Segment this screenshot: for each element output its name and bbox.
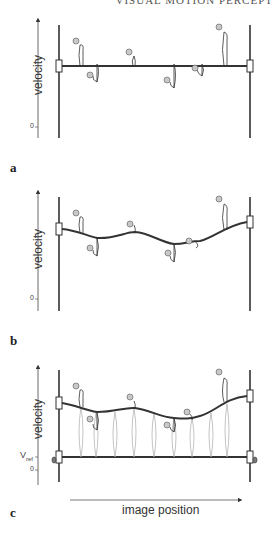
panel-c [35, 367, 257, 500]
x-axis-label: image position [122, 503, 199, 517]
panel-a [35, 20, 253, 138]
panel-b [35, 192, 253, 311]
zero-tick-c: 0 [30, 465, 34, 472]
panel-letter-a: a [10, 160, 17, 176]
vref-sub: ref [26, 456, 33, 462]
y-axis-label-a: velocity [31, 47, 45, 95]
panel-letter-b: b [10, 333, 17, 349]
zero-tick-a: 0 [30, 122, 34, 129]
panel-letter-c: c [10, 505, 16, 521]
y-axis-label-c: velocity [31, 391, 45, 439]
y-axis-label-b: velocity [31, 221, 45, 269]
vref-label: Vref [20, 450, 33, 462]
zero-tick-b: 0 [30, 294, 34, 301]
